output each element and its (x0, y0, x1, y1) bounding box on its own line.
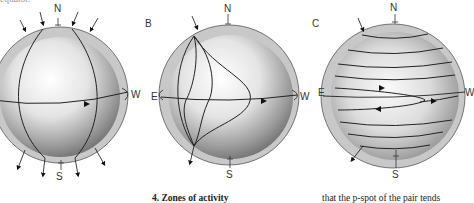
panel-label-c: C (312, 18, 319, 29)
globe-c-west-label: W (465, 88, 474, 98)
globe-b (159, 14, 299, 168)
globe-b-north-label: N (224, 4, 231, 14)
body-text-fragment: that the p-spot of the pair tends (322, 193, 440, 203)
globe-c-east-label: E (318, 88, 325, 98)
globe-c-south-label: S (392, 170, 399, 180)
globe-a-west-label: W (131, 90, 140, 100)
panel-label-b: B (145, 18, 152, 29)
globe-c (321, 14, 465, 168)
globe-a-north-label: N (54, 4, 61, 14)
top-text-fragment: equator. (0, 0, 30, 4)
globe-b-south-label: S (226, 170, 233, 180)
globe-a-south-label: S (56, 172, 63, 182)
globe-a (0, 12, 128, 175)
globe-c-north-label: N (390, 3, 397, 13)
globe-b-west-label: W (300, 92, 309, 102)
caption-heading: 4. Zones of activity (152, 193, 229, 203)
globe-b-east-label: E (151, 92, 158, 102)
